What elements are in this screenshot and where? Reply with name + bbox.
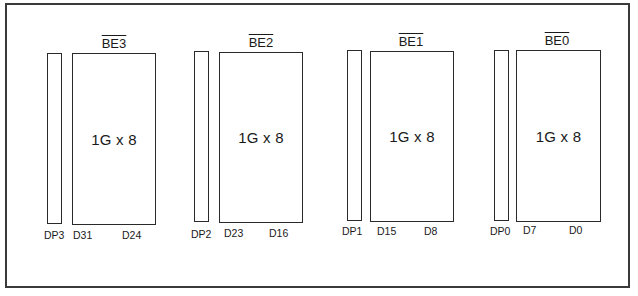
parity-chip xyxy=(194,51,209,222)
memory-chip: 1G x 8 xyxy=(370,51,454,222)
parity-pin-label: DP3 xyxy=(44,229,64,241)
parity-pin-label: DP2 xyxy=(191,228,211,240)
data-high-pin-label: D31 xyxy=(73,229,92,241)
data-low-pin-label: D0 xyxy=(569,224,582,236)
data-low-pin-label: D24 xyxy=(122,229,141,241)
chip-capacity-label: 1G x 8 xyxy=(389,128,434,145)
memory-chip: 1G x 8 xyxy=(72,53,156,225)
chip-capacity-label: 1G x 8 xyxy=(238,129,283,146)
parity-pin-label: DP0 xyxy=(490,225,510,237)
data-low-pin-label: D8 xyxy=(424,225,437,237)
bank-enable-label: BE2 xyxy=(231,35,291,50)
chip-capacity-label: 1G x 8 xyxy=(536,128,581,145)
data-high-pin-label: D7 xyxy=(523,224,536,236)
memory-chip: 1G x 8 xyxy=(516,50,601,222)
parity-chip xyxy=(494,50,509,221)
parity-chip xyxy=(47,53,62,224)
bank-enable-label: BE3 xyxy=(84,36,144,51)
parity-chip xyxy=(347,50,362,221)
data-high-pin-label: D23 xyxy=(224,227,243,239)
chip-capacity-label: 1G x 8 xyxy=(91,131,136,148)
parity-pin-label: DP1 xyxy=(342,225,362,237)
data-low-pin-label: D16 xyxy=(269,227,288,239)
memory-chip: 1G x 8 xyxy=(219,52,303,223)
bank-enable-label: BE0 xyxy=(527,33,587,48)
bank-enable-label: BE1 xyxy=(381,34,441,49)
data-high-pin-label: D15 xyxy=(377,225,396,237)
